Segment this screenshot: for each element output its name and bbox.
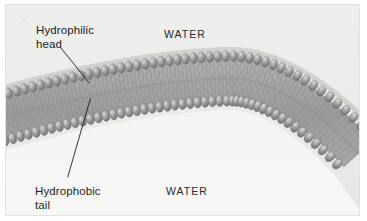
label-hydrophilic-head: Hydrophilic head [36,24,94,51]
diagram-panel: ⌁ Hydrophilic head Hydrophobic tail WATE… [5,4,360,216]
label-hydrophobic-tail: Hydrophobic tail [35,185,101,212]
scan-artifact: ⌁ [22,18,28,22]
hydrophilic-head [213,51,221,62]
label-water-bottom: WATER [166,185,208,199]
label-water-top: WATER [164,28,206,42]
figure-root: ⌁ Hydrophilic head Hydrophobic tail WATE… [0,0,367,221]
hydrophilic-head [230,50,238,61]
hydrophilic-head [222,50,230,61]
